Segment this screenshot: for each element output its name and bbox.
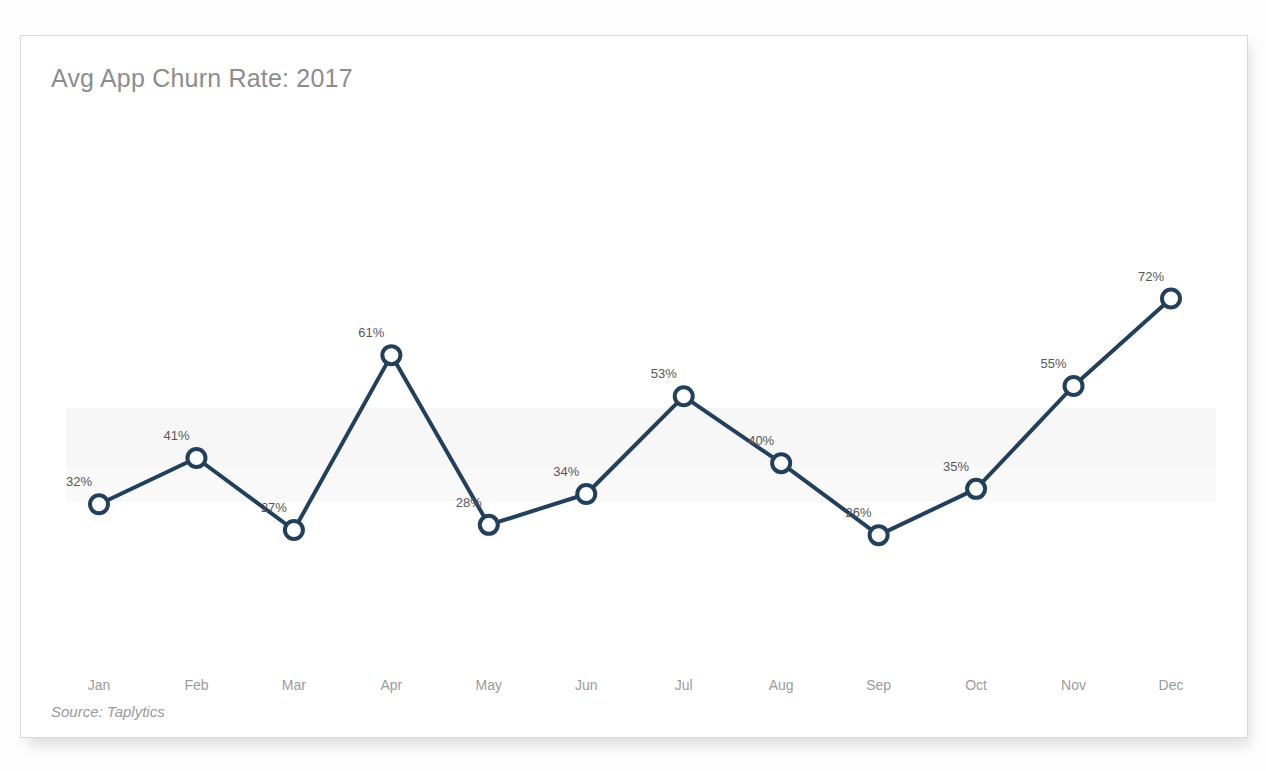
x-axis-tick-label: Mar [282, 677, 306, 693]
data-point-marker[interactable] [382, 346, 400, 364]
data-point-marker[interactable] [870, 526, 888, 544]
x-axis-tick-label: Feb [184, 677, 208, 693]
data-point-value-label: 32% [66, 474, 92, 489]
x-axis-tick-label: Jul [675, 677, 693, 693]
data-point-marker[interactable] [90, 495, 108, 513]
data-point-marker[interactable] [187, 449, 205, 467]
chart-source-note: Source: Taplytics [51, 703, 165, 720]
x-axis-tick-label: Nov [1061, 677, 1086, 693]
data-point-value-label: 35% [943, 459, 969, 474]
chart-card: Avg App Churn Rate: 2017 32%41%27%61%28%… [20, 35, 1248, 738]
data-point-value-label: 61% [358, 325, 384, 340]
series-line-avg-app-churn-rate [99, 299, 1171, 535]
line-chart-plot: 32%41%27%61%28%34%53%40%26%35%55%72% Jan… [21, 36, 1249, 739]
data-point-value-label: 55% [1041, 356, 1067, 371]
x-axis-tick-label: Oct [965, 677, 987, 693]
data-point-value-label: 40% [748, 433, 774, 448]
x-axis-tick-label: Apr [380, 677, 402, 693]
x-axis-tick-label: Jan [88, 677, 111, 693]
data-point-marker[interactable] [1065, 377, 1083, 395]
series-markers-group [90, 290, 1180, 545]
data-point-marker[interactable] [772, 454, 790, 472]
x-axis-tick-label: May [476, 677, 502, 693]
page-root: Avg App Churn Rate: 2017 32%41%27%61%28%… [0, 0, 1266, 771]
x-axis-tick-label: Dec [1159, 677, 1184, 693]
data-point-value-label: 53% [651, 366, 677, 381]
data-point-marker[interactable] [480, 516, 498, 534]
x-axis-tick-labels-group: JanFebMarAprMayJunJulAugSepOctNovDec [88, 677, 1184, 693]
data-point-marker[interactable] [675, 387, 693, 405]
data-point-value-label: 41% [163, 428, 189, 443]
data-point-value-label: 27% [261, 500, 287, 515]
data-point-marker[interactable] [577, 485, 595, 503]
data-point-value-label: 28% [456, 495, 482, 510]
data-point-value-label: 34% [553, 464, 579, 479]
data-point-value-label: 72% [1138, 269, 1164, 284]
data-point-marker[interactable] [967, 480, 985, 498]
data-point-marker[interactable] [1162, 290, 1180, 308]
data-point-value-label: 26% [846, 505, 872, 520]
x-axis-tick-label: Jun [575, 677, 598, 693]
x-axis-tick-label: Aug [769, 677, 794, 693]
x-axis-tick-label: Sep [866, 677, 891, 693]
data-point-marker[interactable] [285, 521, 303, 539]
